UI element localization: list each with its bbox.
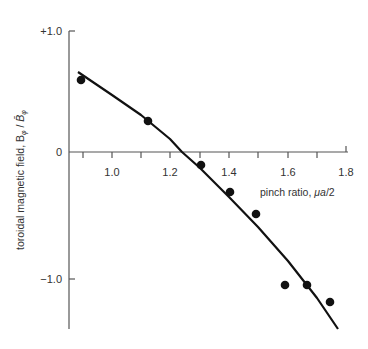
x-axis-title: pinch ratio, μa/2: [260, 186, 335, 198]
x-tick-label: 1.8: [338, 166, 353, 178]
x-tick-label: 1.4: [221, 166, 236, 178]
y-tick-label: −1.0: [40, 273, 62, 285]
x-tick-label: 1.2: [162, 166, 177, 178]
x-tick-label: 1.6: [280, 166, 295, 178]
data-point: [144, 117, 153, 126]
chart: +1.0 0 −1.0 1.0 1.2 1.4 1.6 1.8 pinch ra…: [0, 0, 368, 349]
x-tick-label: 1.0: [104, 166, 119, 178]
data-point: [281, 281, 290, 290]
y-axis-title: toroidal magnetic field, Bφ / B̄φ: [14, 110, 28, 250]
theory-curve: [78, 72, 338, 329]
y-tick-label: +1.0: [40, 25, 62, 37]
y-tick-label: 0: [56, 146, 62, 158]
data-point: [326, 298, 335, 307]
data-point: [252, 210, 261, 219]
data-point: [226, 188, 235, 197]
data-point: [197, 161, 206, 170]
data-point: [303, 281, 312, 290]
data-point: [77, 76, 86, 85]
